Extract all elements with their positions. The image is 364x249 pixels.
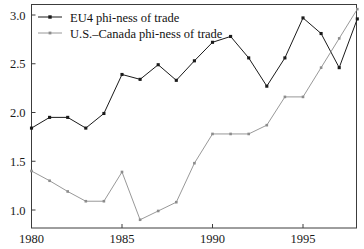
y-tick-label: 3.0 bbox=[10, 9, 26, 23]
data-point-marker bbox=[301, 16, 304, 19]
data-point-marker bbox=[175, 79, 178, 82]
y-tick-label: 1.5 bbox=[10, 155, 26, 169]
data-point-marker bbox=[175, 201, 178, 204]
x-tick-label: 1995 bbox=[291, 232, 316, 246]
data-point-marker bbox=[356, 8, 359, 11]
data-point-marker bbox=[247, 133, 250, 136]
data-point-marker bbox=[48, 179, 51, 182]
x-tick-label: 1985 bbox=[110, 232, 135, 246]
data-point-marker bbox=[229, 133, 232, 136]
data-point-marker bbox=[338, 66, 341, 69]
data-point-marker bbox=[320, 66, 323, 69]
data-point-marker bbox=[283, 56, 286, 59]
data-point-marker bbox=[356, 17, 359, 20]
data-point-marker bbox=[229, 35, 232, 38]
y-tick-label: 1.0 bbox=[10, 204, 26, 218]
data-point-marker bbox=[139, 78, 142, 81]
data-point-marker bbox=[85, 200, 88, 203]
data-point-marker bbox=[103, 200, 106, 203]
legend-label: EU4 phi-ness of trade bbox=[70, 11, 180, 25]
y-tick-label: 2.5 bbox=[10, 57, 26, 71]
data-point-marker bbox=[302, 96, 305, 99]
data-point-marker bbox=[157, 63, 160, 66]
data-point-marker bbox=[120, 73, 123, 76]
data-point-marker bbox=[211, 41, 214, 44]
x-tick-label: 1990 bbox=[200, 232, 225, 246]
data-point-marker bbox=[247, 56, 250, 59]
chart-figure: 1.01.52.02.53.0 1980198519901995 EU4 phi… bbox=[0, 0, 364, 249]
data-point-marker bbox=[84, 127, 87, 130]
data-point-marker bbox=[102, 112, 105, 115]
legend-marker-swatch bbox=[48, 15, 51, 18]
line-chart: 1.01.52.02.53.0 1980198519901995 EU4 phi… bbox=[0, 0, 364, 249]
data-point-marker bbox=[30, 170, 33, 173]
data-point-marker bbox=[48, 116, 51, 119]
data-point-marker bbox=[266, 124, 269, 127]
data-point-marker bbox=[66, 190, 69, 193]
data-point-marker bbox=[193, 162, 196, 165]
legend-marker-swatch bbox=[49, 32, 52, 35]
data-point-marker bbox=[157, 210, 160, 213]
x-tick-label: 1980 bbox=[19, 232, 44, 246]
data-point-marker bbox=[284, 96, 287, 99]
data-point-marker bbox=[139, 218, 142, 221]
y-tick-label: 2.0 bbox=[10, 106, 26, 120]
data-point-marker bbox=[121, 171, 124, 174]
legend-label: U.S.–Canada phi-ness of trade bbox=[70, 27, 223, 41]
data-point-marker bbox=[320, 32, 323, 35]
data-point-marker bbox=[265, 85, 268, 88]
data-point-marker bbox=[211, 133, 214, 136]
data-point-marker bbox=[193, 59, 196, 62]
data-point-marker bbox=[30, 127, 33, 130]
data-point-marker bbox=[338, 37, 341, 40]
data-point-marker bbox=[66, 116, 69, 119]
